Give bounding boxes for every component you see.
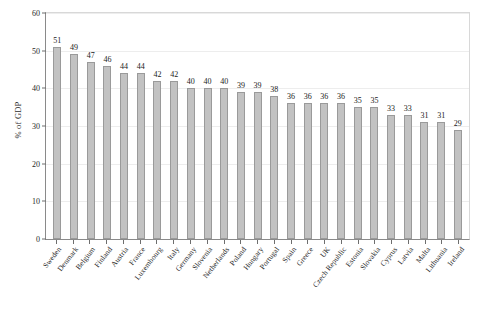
bar-slot[interactable]: 42 [149, 13, 166, 239]
x-axis-tick-mark [56, 240, 57, 244]
bar[interactable] [320, 103, 328, 239]
bar[interactable] [254, 92, 262, 239]
x-axis-tick-slot [450, 240, 467, 244]
bar-slot[interactable]: 36 [283, 13, 300, 239]
bar-slot[interactable]: 46 [99, 13, 116, 239]
x-axis-tick-slot [249, 240, 266, 244]
bar-slot[interactable]: 40 [183, 13, 200, 239]
bar-slot[interactable]: 33 [399, 13, 416, 239]
bar-slot[interactable]: 40 [216, 13, 233, 239]
bar-value-label: 36 [304, 92, 312, 101]
bar-slot[interactable]: 51 [49, 13, 66, 239]
bar[interactable] [454, 130, 462, 239]
bar[interactable] [437, 122, 445, 239]
bar[interactable] [420, 122, 428, 239]
bar-value-label: 38 [270, 85, 278, 94]
bar-slot[interactable]: 39 [233, 13, 250, 239]
bar[interactable] [304, 103, 312, 239]
bar-series: 5149474644444242404040393938363636363535… [46, 13, 469, 239]
y-axis-tick-label: 0 [20, 235, 40, 244]
bar[interactable] [220, 88, 228, 239]
y-axis-tick-label: 50 [20, 46, 40, 55]
bar-slot[interactable]: 44 [132, 13, 149, 239]
x-axis-label-slot: Slovakia [367, 245, 384, 313]
bar[interactable] [170, 81, 178, 239]
bar-slot[interactable]: 31 [416, 13, 433, 239]
bar[interactable] [370, 107, 378, 239]
x-axis-tick-mark [374, 240, 375, 244]
x-axis-label-slot: Italy [165, 245, 182, 313]
bar[interactable] [53, 47, 61, 239]
x-axis-tick-mark [257, 240, 258, 244]
bar[interactable] [153, 81, 161, 239]
x-axis-category-labels: SwedenDenmarkBelgiumFinlandAustriaFrance… [45, 245, 470, 313]
bar[interactable] [120, 73, 128, 239]
x-axis-label-slot: Czech Republic [333, 245, 350, 313]
bar-chart-figure: % of GDP 0102030405060 51494746444442424… [0, 0, 480, 316]
bar-value-label: 35 [354, 96, 362, 105]
bar-value-label: 35 [370, 96, 378, 105]
bar-value-label: 29 [454, 119, 462, 128]
x-axis-tick-slot [165, 240, 182, 244]
x-axis-tick-mark [458, 240, 459, 244]
x-axis-tick-mark [425, 240, 426, 244]
bar-value-label: 40 [220, 77, 228, 86]
bar-slot[interactable]: 36 [333, 13, 350, 239]
bar[interactable] [187, 88, 195, 239]
bar-value-label: 31 [420, 111, 428, 120]
x-axis-tick-slot [199, 240, 216, 244]
bar-slot[interactable]: 40 [199, 13, 216, 239]
y-axis-title-text: % of GDP [12, 101, 22, 138]
bar[interactable] [387, 115, 395, 239]
bar[interactable] [404, 115, 412, 239]
x-axis-tick-mark [224, 240, 225, 244]
bar-value-label: 39 [237, 81, 245, 90]
x-axis-tick-mark [123, 240, 124, 244]
x-axis-label-slot: Finland [98, 245, 115, 313]
bar-slot[interactable]: 36 [299, 13, 316, 239]
bar[interactable] [270, 96, 278, 239]
bar-slot[interactable]: 49 [66, 13, 83, 239]
x-axis-tick-mark [341, 240, 342, 244]
bar-slot[interactable]: 42 [166, 13, 183, 239]
bar[interactable] [354, 107, 362, 239]
bar[interactable] [70, 54, 78, 239]
bar[interactable] [337, 103, 345, 239]
bar-slot[interactable]: 44 [116, 13, 133, 239]
bar[interactable] [87, 62, 95, 239]
bar-slot[interactable]: 38 [266, 13, 283, 239]
bar-value-label: 40 [204, 77, 212, 86]
x-axis-label-slot: Denmark [65, 245, 82, 313]
x-axis-tick-mark [140, 240, 141, 244]
bar[interactable] [237, 92, 245, 239]
bar-slot[interactable]: 39 [249, 13, 266, 239]
plot-area: 0102030405060 51494746444442424040403939… [45, 12, 470, 240]
x-axis-tick-slot [132, 240, 149, 244]
x-axis-label-slot: Portugal [266, 245, 283, 313]
bar-slot[interactable]: 29 [450, 13, 467, 239]
bar-slot[interactable]: 47 [82, 13, 99, 239]
bar[interactable] [137, 73, 145, 239]
x-axis-label-slot: Malta [417, 245, 434, 313]
bar[interactable] [287, 103, 295, 239]
x-axis-tick-slot [266, 240, 283, 244]
bar-value-label: 39 [254, 81, 262, 90]
bar[interactable] [103, 66, 111, 239]
bar-slot[interactable]: 35 [349, 13, 366, 239]
y-axis-tick-label: 30 [20, 122, 40, 131]
bar-value-label: 42 [170, 70, 178, 79]
x-axis-label-slot: Hungary [249, 245, 266, 313]
x-axis-tick-mark [324, 240, 325, 244]
bar[interactable] [204, 88, 212, 239]
x-axis-tick-slot [316, 240, 333, 244]
bar-value-label: 42 [153, 70, 161, 79]
bar-slot[interactable]: 31 [433, 13, 450, 239]
x-axis-tick-slot [367, 240, 384, 244]
bar-slot[interactable]: 33 [383, 13, 400, 239]
x-axis-label-slot: Luxembourg [149, 245, 166, 313]
plot-inner: 0102030405060 51494746444442424040403939… [46, 13, 469, 239]
bar-value-label: 36 [337, 92, 345, 101]
x-axis-label-slot: Austria [115, 245, 132, 313]
bar-slot[interactable]: 35 [366, 13, 383, 239]
bar-slot[interactable]: 36 [316, 13, 333, 239]
